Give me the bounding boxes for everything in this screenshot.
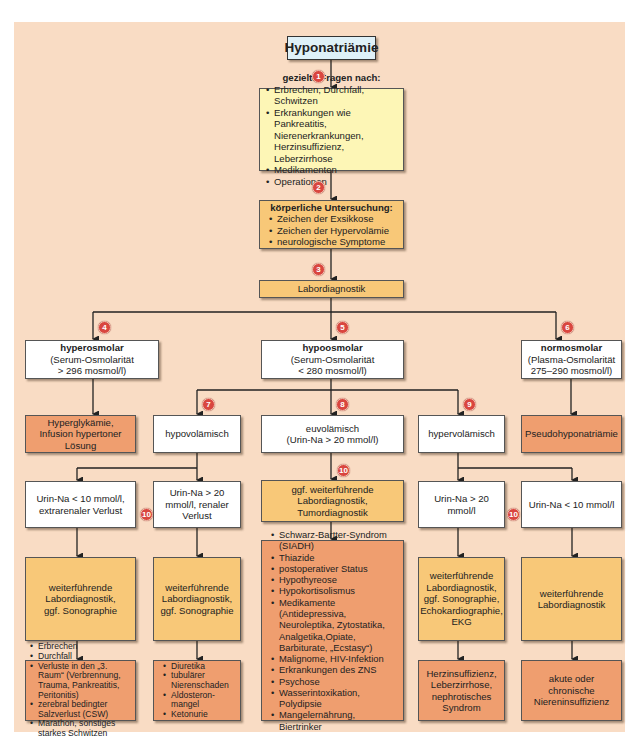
list-item: Erbrechen, Durchfall, Schwitzen (265, 84, 398, 107)
list-item: postoperativer Status (270, 563, 395, 574)
hyper-low-causes-text: akute oder chronische Niereninsuffizienz (530, 673, 613, 708)
euvolemic-diagnostics-text: ggf. weiterführende Labordiagnostik, Tum… (278, 484, 387, 519)
normosmolar-heading: normosmolar (541, 342, 602, 354)
step-badge-7: 7 (202, 398, 215, 411)
euvolemic-causes-list: Schwarz-Bartter-Syndrom (SIADH) Thiazide… (270, 529, 395, 732)
hyperosmolar-box: hyperosmolar (Serum-Osmolarität > 296 mo… (25, 340, 159, 379)
normo-result-text: Pseudohyponatriämie (525, 428, 618, 440)
list-item: Erkrankungen wie Pankreatitis, Nierenerk… (265, 107, 398, 165)
urine-hyper-high-text: Urin-Na > 20 mmol/l (423, 493, 500, 516)
step-badge-2: 2 (312, 181, 325, 194)
list-item: Marathon, sonstiges starkes Schwitzen (29, 719, 132, 738)
hypoosmolar-line1: (Serum-Osmolarität (291, 354, 375, 366)
diagnostics-hypo-high-box: weiterführende Labordiagnostik, ggf. Son… (153, 557, 241, 641)
step-badge-9: 9 (463, 398, 476, 411)
list-item: Hypothyreose (270, 574, 395, 585)
list-item: Medikamente (Antidepressiva, Neuroleptik… (270, 597, 395, 653)
hyper-low-causes-box: akute oder chronische Niereninsuffizienz (521, 660, 622, 721)
hyperosmolar-heading: hyperosmolar (60, 342, 123, 354)
list-item: Mangelernährung, Biertrinker (270, 709, 395, 732)
hypervolemic-label: hypervolämisch (428, 428, 495, 440)
list-item: Verluste in den „3. Raum“ (Verbrennung, … (29, 662, 132, 701)
list-item: neurologische Symptome (268, 236, 395, 248)
renal-causes-box: Diuretika tubulärer Nierenschaden Aldost… (153, 660, 241, 721)
urine-hypo-low-box: Urin-Na < 10 mmol/l, extrarenaler Verlus… (25, 481, 136, 528)
step-badge-10-right: 10 (507, 508, 520, 521)
list-item: Ketonurie (162, 710, 232, 720)
hyperosmolar-line2: > 296 mosmol/l) (58, 365, 127, 377)
step2-examination-box: körperliche Untersuchung: Zeichen der Ex… (259, 200, 404, 249)
list-item: Zeichen der Exsikkose (268, 213, 395, 225)
list-item: zerebral bedingter Salzverlust (CSW) (29, 700, 132, 719)
extrarenal-causes-box: Erbrechen Durchfall Verluste in den „3. … (25, 660, 136, 721)
step-badge-10-left: 10 (140, 508, 153, 521)
normo-result-box: Pseudohyponatriämie (521, 415, 622, 453)
title-text: Hyponatriämie (285, 40, 379, 56)
list-item: Medikamenten (265, 164, 398, 176)
urine-hyper-low-text: Urin-Na < 10 mmol/l (529, 499, 615, 511)
hypovolemic-label: hypovolämisch (165, 428, 228, 440)
diagnostics-hypo-high-text: weiterführende Labordiagnostik, ggf. Son… (160, 582, 234, 617)
urine-hypo-high-box: Urin-Na > 20 mmol/l, renaler Verlust (153, 481, 241, 528)
euvolemic-causes-box: Schwarz-Bartter-Syndrom (SIADH) Thiazide… (261, 540, 404, 721)
step-badge-1: 1 (312, 70, 325, 83)
list-item: Malignome, HIV-Infektion (270, 653, 395, 664)
step3-lab-box: Labordiagnostik (259, 280, 404, 298)
diagnostics-hyper-high-box: weiterführende Labordiagnostik, ggf. Son… (418, 557, 505, 641)
step-badge-8: 8 (336, 398, 349, 411)
diagram-title: Hyponatriämie (287, 36, 376, 60)
hypoosmolar-box: hypoosmolar (Serum-Osmolarität < 280 mos… (261, 340, 404, 379)
step-badge-3: 3 (312, 263, 325, 276)
list-item: Zeichen der Hypervolämie (268, 225, 395, 237)
urine-hypo-high-text: Urin-Na > 20 mmol/l, renaler Verlust (158, 487, 236, 522)
list-item: Erkrankungen des ZNS (270, 664, 395, 675)
euvolemic-box: euvolämisch (Urin-Na > 20 mmol/l) (261, 415, 404, 453)
diagnostics-hyper-low-box: weiterführende Labordiagnostik (521, 557, 622, 641)
urine-hypo-low-text: Urin-Na < 10 mmol/l, extrarenaler Verlus… (30, 493, 131, 516)
euvolemic-diagnostics-box: ggf. weiterführende Labordiagnostik, Tum… (261, 480, 404, 522)
diagnostics-hypo-low-text: weiterführende Labordiagnostik, ggf. Son… (40, 582, 121, 617)
hyper-high-causes-box: Herzinsuffizienz, Leberzirrhose, nephrot… (418, 660, 505, 721)
step1-heading: gezielte Fragen nach: (282, 72, 380, 84)
normosmolar-box: normosmolar (Plasma-Osmolarität 275–290 … (521, 340, 622, 379)
step2-list: Zeichen der Exsikkose Zeichen der Hyperv… (268, 213, 395, 248)
hyperosmolar-line1: (Serum-Osmolarität (50, 354, 134, 366)
hypovolemic-box: hypovolämisch (153, 415, 241, 453)
list-item: Hypokortisolismus (270, 585, 395, 596)
step-badge-5: 5 (336, 321, 349, 334)
urine-hyper-high-box: Urin-Na > 20 mmol/l (418, 481, 505, 528)
euvolemic-sublabel: (Urin-Na > 20 mmol/l) (287, 434, 379, 446)
step1-questions-box: gezielte Fragen nach: Erbrechen, Durchfa… (259, 88, 404, 171)
list-item: Aldosteron-mangel (162, 691, 232, 710)
hyper-high-causes-text: Herzinsuffizienz, Leberzirrhose, nephrot… (425, 668, 498, 714)
normosmolar-line1: (Plasma-Osmolarität (528, 354, 615, 366)
list-item: Thiazide (270, 552, 395, 563)
hypoosmolar-line2: < 280 mosmol/l) (298, 365, 367, 377)
hypoosmolar-heading: hypoosmolar (302, 342, 362, 354)
hyper-result-text: Hyperglykämie, Infusion hypertoner Lösun… (30, 417, 131, 452)
list-item: Wasserintoxikation, Polydipsie (270, 687, 395, 710)
euvolemic-label: euvolämisch (306, 423, 359, 435)
step3-label: Labordiagnostik (298, 283, 366, 295)
list-item: Operationen (265, 176, 398, 188)
step1-list: Erbrechen, Durchfall, Schwitzen Erkranku… (265, 84, 398, 188)
step2-heading: körperliche Untersuchung: (270, 202, 393, 214)
step-badge-10-center: 10 (337, 464, 350, 477)
hyper-result-box: Hyperglykämie, Infusion hypertoner Lösun… (25, 415, 136, 453)
renal-causes-list: Diuretika tubulärer Nierenschaden Aldost… (162, 662, 232, 720)
step-badge-4: 4 (98, 321, 111, 334)
normosmolar-line2: 275–290 mosmol/l) (531, 365, 613, 377)
hypervolemic-box: hypervolämisch (418, 415, 505, 453)
diagnostics-hyper-high-text: weiterführende Labordiagnostik, ggf. Son… (420, 570, 503, 628)
step-badge-6: 6 (561, 321, 574, 334)
list-item: tubulärer Nierenschaden (162, 671, 232, 690)
diagnostics-hyper-low-text: weiterführende Labordiagnostik (532, 588, 611, 611)
list-item: Psychose (270, 676, 395, 687)
list-item: Schwarz-Bartter-Syndrom (SIADH) (270, 529, 395, 552)
urine-hyper-low-box: Urin-Na < 10 mmol/l (521, 481, 622, 528)
diagnostics-hypo-low-box: weiterführende Labordiagnostik, ggf. Son… (25, 557, 136, 641)
extrarenal-causes-list: Erbrechen Durchfall Verluste in den „3. … (29, 642, 132, 738)
